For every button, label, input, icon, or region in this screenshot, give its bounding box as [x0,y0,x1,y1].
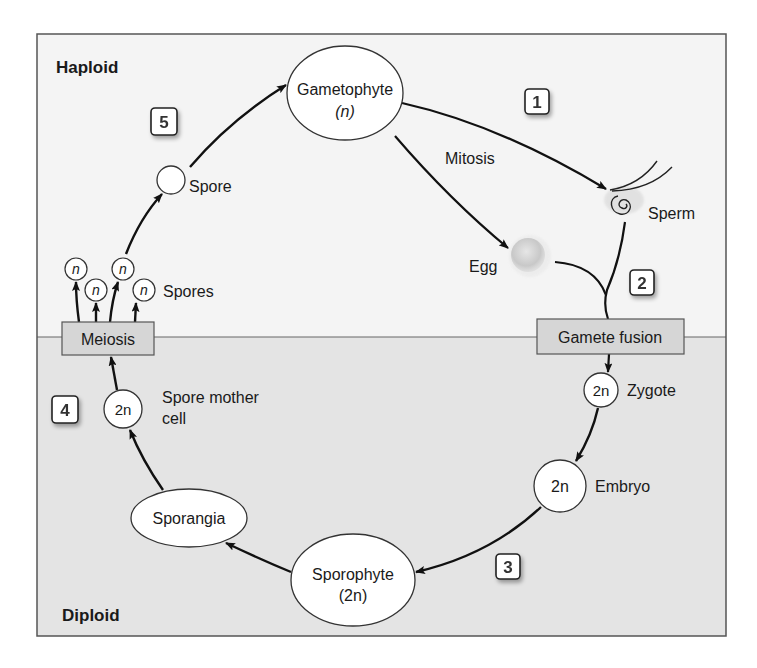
step-5-badge: 5 [151,108,177,135]
sporophyte-node: Sporophyte (2n) [291,534,415,626]
meiosis-label: Meiosis [81,331,135,348]
gametophyte-label: Gametophyte [297,81,393,98]
step-2-number: 2 [637,274,646,293]
gametophyte-node: Gametophyte (n) [287,46,403,140]
spore-mother-cell-label-line2: cell [162,410,186,427]
spores-label: Spores [163,283,214,300]
sperm-label: Sperm [648,205,695,222]
sporophyte-label: Sporophyte [312,566,394,583]
spore-n-3-label: n [119,261,127,277]
spore-mother-cell-ploidy: 2n [115,401,132,418]
egg-label: Egg [469,258,497,275]
spore-n-1-label: n [72,261,80,277]
plant-life-cycle-diagram: Haploid Diploid Gametophyte (n) Spore n [0,0,757,668]
spore-n-4-label: n [140,282,148,298]
embryo-ploidy: 2n [551,478,569,495]
step-4-badge: 4 [52,396,78,423]
diploid-label: Diploid [62,606,120,625]
gamete-fusion-label: Gamete fusion [558,329,662,346]
step-2-badge: 2 [630,270,654,295]
haploid-label: Haploid [56,58,118,77]
sporophyte-ploidy: (2n) [339,587,367,604]
mitosis-label: Mitosis [445,150,495,167]
meiosis-box: Meiosis [62,322,154,355]
sporangia-label: Sporangia [153,510,226,527]
step-1-number: 1 [532,93,541,112]
gametophyte-ploidy: (n) [335,103,355,120]
step-3-badge: 3 [496,554,520,579]
spore-n-2-label: n [92,282,100,298]
gamete-fusion-box: Gamete fusion [537,319,684,354]
spore-label: Spore [189,178,232,195]
step-4-number: 4 [60,401,70,420]
step-5-number: 5 [159,113,168,132]
arrow-meiosis-to-spore-4 [135,303,136,322]
step-3-number: 3 [503,558,512,577]
step-1-badge: 1 [525,89,549,114]
arrow-fusion-to-zygote [608,354,609,372]
sporangia-node: Sporangia [131,489,247,547]
zygote-label: Zygote [627,382,676,399]
embryo-label: Embryo [595,478,650,495]
spore-mother-cell-label-line1: Spore mother [162,389,260,406]
zygote-ploidy: 2n [593,382,610,399]
